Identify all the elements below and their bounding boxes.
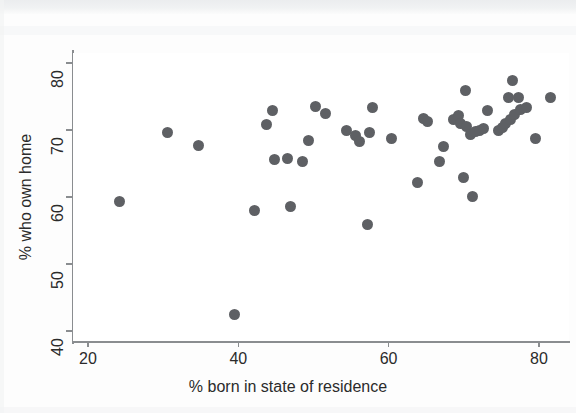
scatter-point bbox=[507, 75, 518, 86]
scatter-point bbox=[545, 92, 556, 103]
y-axis-tick-label: 40 bbox=[49, 330, 67, 364]
scatter-point bbox=[364, 127, 375, 138]
scatter-point bbox=[386, 133, 397, 144]
scatter-point bbox=[362, 219, 373, 230]
x-axis-tick-label: 20 bbox=[68, 350, 108, 368]
x-axis-title: % born in state of residence bbox=[0, 378, 576, 396]
scatter-point bbox=[267, 105, 278, 116]
scan-artifact-top-band bbox=[0, 0, 576, 14]
scatter-point bbox=[460, 85, 471, 96]
scatter-point bbox=[367, 102, 378, 113]
x-axis-tick-label: 60 bbox=[369, 350, 409, 368]
scatter-plot-figure: 405060708020406080 % who own home % born… bbox=[0, 0, 576, 413]
scatter-point bbox=[114, 196, 125, 207]
scatter-point bbox=[467, 191, 478, 202]
x-axis-tick-label: 40 bbox=[218, 350, 258, 368]
scan-artifact-secondary-band bbox=[0, 26, 576, 35]
scatter-point bbox=[438, 141, 449, 152]
scatter-point bbox=[285, 201, 296, 212]
scatter-point bbox=[269, 154, 280, 165]
scatter-point bbox=[320, 108, 331, 119]
scan-artifact-left-edge bbox=[0, 0, 4, 413]
scatter-point bbox=[282, 153, 293, 164]
x-axis-tick bbox=[388, 341, 390, 347]
scatter-point bbox=[249, 205, 260, 216]
scatter-point bbox=[478, 123, 489, 134]
x-axis-tick bbox=[538, 341, 540, 347]
scatter-point bbox=[513, 92, 524, 103]
scatter-point bbox=[412, 177, 423, 188]
scatter-point bbox=[434, 156, 445, 167]
scatter-point bbox=[482, 105, 493, 116]
scan-artifact-bottom-edge bbox=[0, 407, 576, 413]
scatter-point bbox=[261, 119, 272, 130]
scatter-point bbox=[297, 156, 308, 167]
x-axis-line bbox=[72, 341, 570, 343]
scatter-point bbox=[530, 133, 541, 144]
y-axis-tick-label: 50 bbox=[49, 263, 67, 297]
scatter-point bbox=[354, 136, 365, 147]
scatter-point bbox=[521, 102, 532, 113]
plot-data-area bbox=[73, 53, 569, 341]
scatter-point bbox=[303, 135, 314, 146]
x-axis-tick-label: 80 bbox=[519, 350, 559, 368]
scatter-point bbox=[458, 172, 469, 183]
y-axis-tick-label: 70 bbox=[49, 129, 67, 163]
scatter-point bbox=[162, 127, 173, 138]
y-axis-tick-label: 80 bbox=[49, 62, 67, 96]
y-axis-tick-label: 60 bbox=[49, 196, 67, 230]
scatter-point bbox=[422, 116, 433, 127]
x-axis-tick bbox=[238, 341, 240, 347]
scatter-point bbox=[193, 140, 204, 151]
x-axis-tick bbox=[87, 341, 89, 347]
scatter-point bbox=[229, 309, 240, 320]
y-axis-title: % who own home bbox=[17, 107, 35, 287]
